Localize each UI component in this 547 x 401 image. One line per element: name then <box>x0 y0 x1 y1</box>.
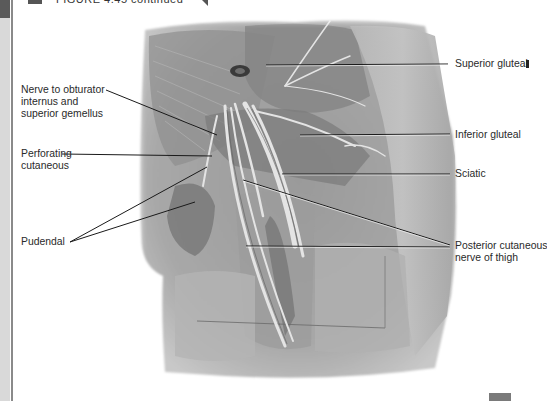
page-edge-mark <box>526 60 529 68</box>
label-superior-gluteal: Superior gluteal <box>455 58 528 70</box>
page-corner-tab <box>489 393 511 401</box>
figure-header: FIGURE 4.45 continued <box>28 0 183 5</box>
page-margin-tab <box>0 0 10 18</box>
label-nerve-to-obturator-internus: Nerve to obturator internus and superior… <box>21 84 105 120</box>
figure-badge-icon <box>28 0 42 4</box>
label-perforating-cutaneous: Perforating cutaneous <box>21 148 72 172</box>
label-line: Perforating <box>21 148 72 160</box>
dissection-photograph <box>135 16 463 388</box>
label-pudendal: Pudendal <box>21 236 65 248</box>
page-margin-strip <box>0 0 10 401</box>
label-line: Pudendal <box>21 236 65 248</box>
label-line: Posterior cutaneous <box>455 240 547 252</box>
label-line: Inferior gluteal <box>455 129 521 141</box>
figure-title: FIGURE 4.45 continued <box>56 0 183 5</box>
figure-header-arrow-icon <box>202 0 208 6</box>
label-line: nerve of thigh <box>455 252 547 264</box>
label-sciatic: Sciatic <box>455 168 486 180</box>
label-line: superior gemellus <box>21 108 105 120</box>
label-posterior-cutaneous-nerve-of-thigh: Posterior cutaneous nerve of thigh <box>455 240 547 264</box>
label-line: internus and <box>21 96 105 108</box>
label-line: Superior gluteal <box>455 58 528 70</box>
label-line: Nerve to obturator <box>21 84 105 96</box>
page-margin-rule <box>11 0 13 401</box>
label-inferior-gluteal: Inferior gluteal <box>455 129 521 141</box>
label-line: cutaneous <box>21 160 72 172</box>
label-line: Sciatic <box>455 168 486 180</box>
